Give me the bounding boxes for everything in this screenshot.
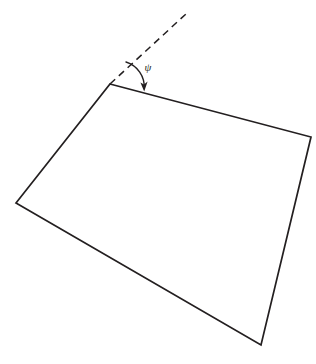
geometry-diagram-canvas: ψ <box>0 0 316 364</box>
figure-svg: ψ <box>0 0 316 364</box>
angle-label-psi: ψ <box>145 61 152 73</box>
